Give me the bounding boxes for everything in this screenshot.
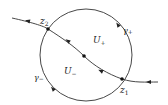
label-gamma-minus: γ− [34, 73, 44, 82]
curve-arrow-icon [146, 80, 151, 84]
label-gamma-plus: γ+ [123, 26, 133, 35]
point-z2 [46, 27, 50, 31]
gamma-plus-arrow-icon [115, 21, 121, 27]
label-u-minus: U− [64, 66, 77, 77]
contour-diagram: z2 U+ γ+ U− γ− z1 [0, 0, 168, 105]
label-u-plus: U+ [93, 35, 106, 46]
point-center [82, 54, 86, 58]
label-z1: z1 [119, 85, 129, 96]
circle-contour [40, 9, 132, 101]
point-z1 [120, 77, 124, 81]
label-z2: z2 [39, 16, 49, 27]
